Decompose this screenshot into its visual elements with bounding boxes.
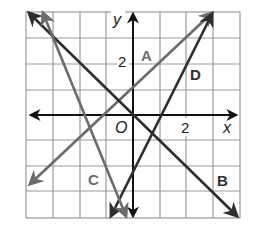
x-tick-2: 2: [181, 119, 189, 136]
x-axis-label: x: [222, 119, 232, 136]
line-b-label: B: [217, 172, 228, 189]
origin-label: O: [115, 119, 127, 136]
line-c-label: C: [88, 171, 99, 188]
y-axis-label: y: [112, 11, 122, 28]
line-a: [30, 13, 212, 184]
coordinate-graph: y x O 2 2 A D C B: [0, 0, 254, 225]
line-d-label: D: [190, 66, 201, 83]
line-a-label: A: [141, 47, 152, 64]
y-tick-2: 2: [118, 53, 126, 70]
